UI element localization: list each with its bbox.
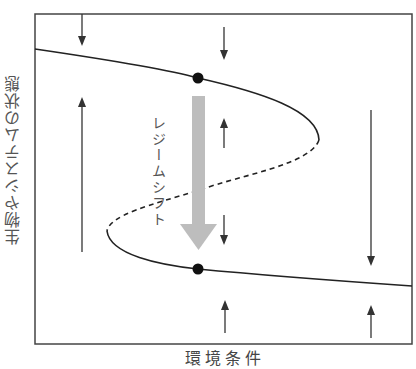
arrow-up-icon — [78, 97, 86, 252]
plot-frame — [35, 14, 412, 344]
arrow-down-icon — [78, 14, 86, 46]
regime-shift-label: レジームシフト — [148, 116, 168, 236]
arrow-down-icon — [220, 215, 228, 245]
lower-equilibrium-dot — [193, 264, 204, 275]
arrow-down-icon — [220, 27, 228, 60]
arrow-up-icon — [220, 118, 228, 148]
upper-equilibrium-dot — [193, 73, 204, 84]
arrow-down-icon — [367, 110, 375, 266]
arrow-up-icon — [221, 300, 229, 333]
regime-shift-arrow — [180, 96, 217, 250]
arrow-up-icon — [367, 305, 375, 338]
y-axis-label: 生物やシステムの状態 — [2, 60, 32, 260]
x-axis-label: 環境条件 — [150, 345, 300, 369]
unstable-branch — [107, 140, 319, 231]
lower-stable-branch — [107, 231, 412, 286]
upper-stable-branch — [35, 49, 319, 140]
